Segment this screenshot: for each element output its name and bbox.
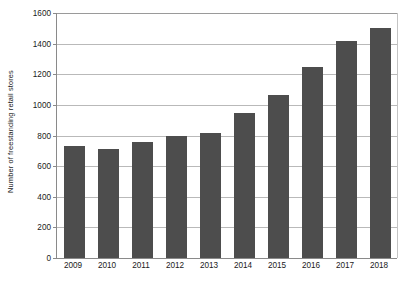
x-axis-tick-label: 2013 <box>200 261 218 270</box>
bar-slot <box>302 13 323 258</box>
x-axis-tick-label: 2018 <box>370 261 388 270</box>
bar-slot <box>268 13 289 258</box>
y-axis-tick-mark <box>53 136 57 137</box>
x-axis-tick-label: 2012 <box>166 261 184 270</box>
bar-chart: Number of freestanding retail stores 020… <box>0 0 406 288</box>
bar-slot <box>132 13 153 258</box>
y-axis-tick-mark <box>53 105 57 106</box>
y-axis-tick-label: 800 <box>0 131 52 140</box>
y-axis-tick-label: 200 <box>0 223 52 232</box>
y-axis-tick-mark <box>53 166 57 167</box>
bar-2016 <box>302 67 323 258</box>
bar-slot <box>64 13 85 258</box>
y-axis-tick-label: 1200 <box>0 70 52 79</box>
bar-2015 <box>268 95 289 258</box>
bar-slot <box>234 13 255 258</box>
y-axis-tick-label: 0 <box>0 254 52 263</box>
bar-2009 <box>64 146 85 258</box>
x-axis-tick-label: 2011 <box>132 261 150 270</box>
bar-slot <box>98 13 119 258</box>
x-axis-tick-label: 2009 <box>64 261 82 270</box>
y-axis-tick-mark <box>53 197 57 198</box>
y-axis-tick-label: 400 <box>0 192 52 201</box>
bar-2010 <box>98 149 119 258</box>
x-axis-tick-label: 2016 <box>302 261 320 270</box>
x-axis-tick-label: 2010 <box>98 261 116 270</box>
x-axis-tick-label: 2017 <box>336 261 354 270</box>
bar-slot <box>370 13 391 258</box>
y-axis-tick-labels: 02004006008001000120014001600 <box>0 0 52 262</box>
y-axis-tick-mark <box>53 13 57 14</box>
bar-slot <box>336 13 357 258</box>
y-axis-tick-label: 1600 <box>0 9 52 18</box>
bar-slot <box>166 13 187 258</box>
bar-2011 <box>132 142 153 258</box>
bar-2013 <box>200 133 221 258</box>
x-axis-tick-label: 2014 <box>234 261 252 270</box>
y-axis-tick-label: 1400 <box>0 39 52 48</box>
plot-area <box>56 13 397 259</box>
x-axis-tick-labels: 2009201020112012201320142015201620172018 <box>56 261 396 281</box>
y-axis-tick-mark <box>53 227 57 228</box>
bar-slot <box>200 13 221 258</box>
plot-right-edge <box>397 13 398 258</box>
bar-2017 <box>336 41 357 258</box>
y-axis-tick-mark <box>53 258 57 259</box>
bar-2014 <box>234 113 255 258</box>
bar-2018 <box>370 28 391 258</box>
y-axis-tick-label: 600 <box>0 162 52 171</box>
y-axis-tick-label: 1000 <box>0 100 52 109</box>
y-axis-tick-mark <box>53 44 57 45</box>
y-axis-tick-mark <box>53 74 57 75</box>
x-axis-tick-label: 2015 <box>268 261 286 270</box>
bar-2012 <box>166 136 187 258</box>
